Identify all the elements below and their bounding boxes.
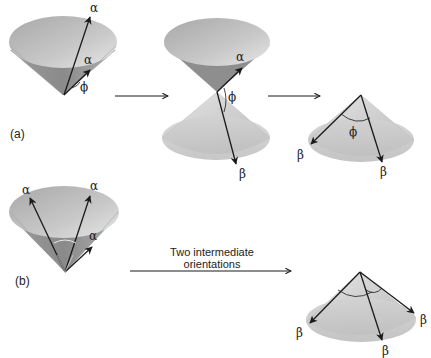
label-phi-3: ϕ <box>349 125 357 139</box>
panel-b-label: (b) <box>15 274 30 288</box>
label-alpha-2: α <box>84 53 92 67</box>
label-phi-1: ϕ <box>80 80 88 94</box>
label-alpha-b3: α <box>89 229 97 243</box>
panel-a-label: (a) <box>10 127 25 141</box>
cone-b1 <box>9 186 119 272</box>
label-alpha-3: α <box>236 50 244 64</box>
transition-caption-line2: orientations <box>184 258 241 270</box>
label-beta-b1: β <box>296 326 303 340</box>
label-beta-b3: β <box>420 313 427 327</box>
diagram-canvas: α α ϕ (a) α ϕ β ϕ β β <box>0 0 431 358</box>
cone-a3 <box>308 95 414 162</box>
label-alpha-1: α <box>90 1 98 15</box>
label-beta-3: β <box>380 165 387 179</box>
cone-a1 <box>9 16 117 95</box>
label-beta-2: β <box>297 148 304 162</box>
transition-caption-line1: Two intermediate <box>170 246 254 258</box>
cone-b2 <box>306 272 416 342</box>
label-beta-1: β <box>239 167 246 181</box>
label-beta-b2: β <box>382 344 389 358</box>
label-alpha-b2: α <box>90 179 98 193</box>
cone-a2 <box>162 18 270 164</box>
label-alpha-b1: α <box>22 183 30 197</box>
label-phi-2: ϕ <box>228 90 236 104</box>
